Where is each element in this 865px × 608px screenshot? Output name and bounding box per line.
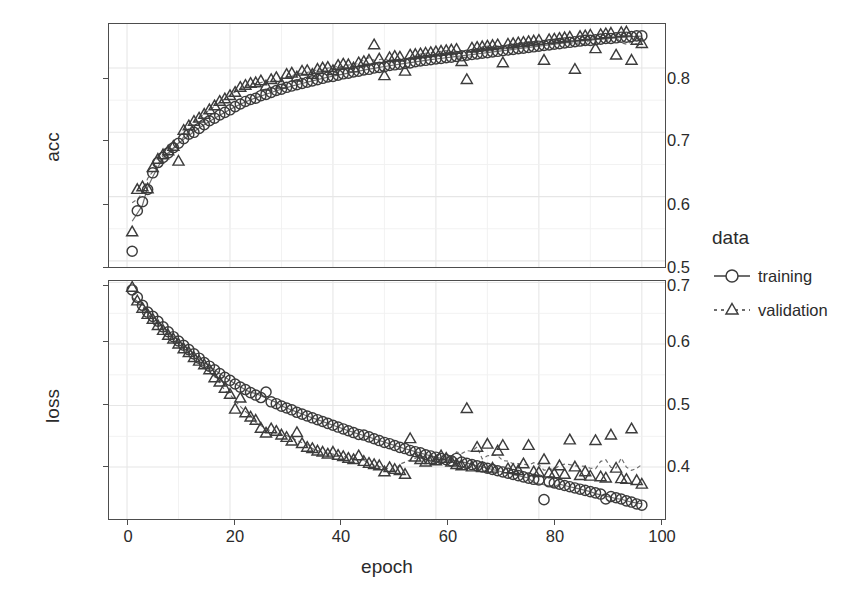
loss-plot-svg (109, 281, 665, 519)
xtick-mark-4 (554, 520, 555, 525)
triangle-marker-icon (712, 297, 752, 323)
xtick-label-4: 80 (546, 528, 564, 545)
plot-region: 0.8 0.7 0.6 0.5 acc 0.7 0.6 0.5 0.4 loss… (0, 0, 690, 608)
xtick-label-5: 100 (648, 528, 676, 545)
loss-axis-title: loss (42, 346, 64, 466)
loss-ytick-label-1: 0.6 (594, 333, 690, 350)
loss-ytick-mark-2 (103, 404, 108, 405)
xtick-label-2: 40 (332, 528, 350, 545)
acc-ytick-label-1: 0.7 (594, 132, 690, 149)
xtick-mark-0 (127, 520, 128, 525)
loss-ytick-mark-1 (103, 341, 108, 342)
facet-panel-loss (108, 280, 666, 520)
chart-root: 0.8 0.7 0.6 0.5 acc 0.7 0.6 0.5 0.4 loss… (0, 0, 865, 608)
x-axis-title: epoch (108, 556, 666, 578)
loss-ytick-label-2: 0.5 (594, 396, 690, 413)
acc-ytick-mark-1 (103, 140, 108, 141)
legend-label-training: training (758, 268, 812, 285)
legend-item-validation[interactable]: validation (712, 295, 862, 325)
acc-ytick-mark-0 (103, 78, 108, 79)
legend-label-validation: validation (758, 302, 828, 319)
facet-panel-acc (108, 23, 666, 268)
legend-title: data (712, 228, 862, 247)
loss-ytick-label-0: 0.7 (594, 277, 690, 294)
acc-ytick-label-3: 0.5 (594, 259, 690, 276)
xtick-mark-3 (447, 520, 448, 525)
xtick-label-3: 60 (439, 528, 457, 545)
loss-ytick-mark-3 (103, 466, 108, 467)
legend-item-training[interactable]: training (712, 261, 862, 291)
legend: data training validation (712, 228, 862, 329)
xtick-label-1: 20 (226, 528, 244, 545)
loss-ytick-mark-0 (103, 285, 108, 286)
legend-key-training (712, 263, 752, 289)
xtick-mark-1 (234, 520, 235, 525)
xtick-mark-5 (661, 520, 662, 525)
loss-ytick-label-3: 0.4 (594, 458, 690, 475)
acc-ytick-mark-3 (103, 267, 108, 268)
xtick-mark-2 (340, 520, 341, 525)
xtick-label-0: 0 (123, 528, 132, 545)
legend-key-validation (712, 297, 752, 323)
acc-ytick-mark-2 (103, 204, 108, 205)
acc-ytick-label-0: 0.8 (594, 70, 690, 87)
circle-marker-icon (712, 263, 752, 289)
acc-axis-title: acc (42, 87, 64, 207)
acc-plot-svg (109, 24, 665, 267)
acc-ytick-label-2: 0.6 (594, 196, 690, 213)
